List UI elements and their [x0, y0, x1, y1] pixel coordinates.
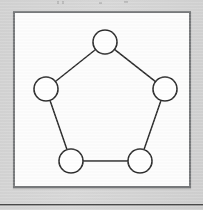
- graph-node-right[interactable]: [153, 77, 177, 101]
- page-canvas: [0, 0, 203, 210]
- figure-frame: [13, 11, 191, 188]
- edge-right-to-bottom-right: [144, 100, 161, 149]
- graph-edges: [50, 49, 161, 161]
- edge-left-to-bottom-left: [50, 100, 67, 149]
- scan-artifact: [124, 1, 128, 3]
- edge-top-to-left: [55, 49, 95, 81]
- scan-artifact: [62, 1, 64, 4]
- graph-node-bottom-left[interactable]: [59, 149, 83, 173]
- edge-top-to-right: [114, 49, 155, 81]
- graph-node-top[interactable]: [93, 30, 117, 54]
- pentagon-graph: [15, 13, 189, 186]
- graph-node-left[interactable]: [34, 77, 58, 101]
- scan-artifact: [99, 2, 102, 4]
- graph-nodes: [34, 30, 177, 173]
- page-divider-rule-shadow: [0, 205, 203, 206]
- graph-node-bottom-right[interactable]: [128, 149, 152, 173]
- scan-artifact: [57, 1, 59, 4]
